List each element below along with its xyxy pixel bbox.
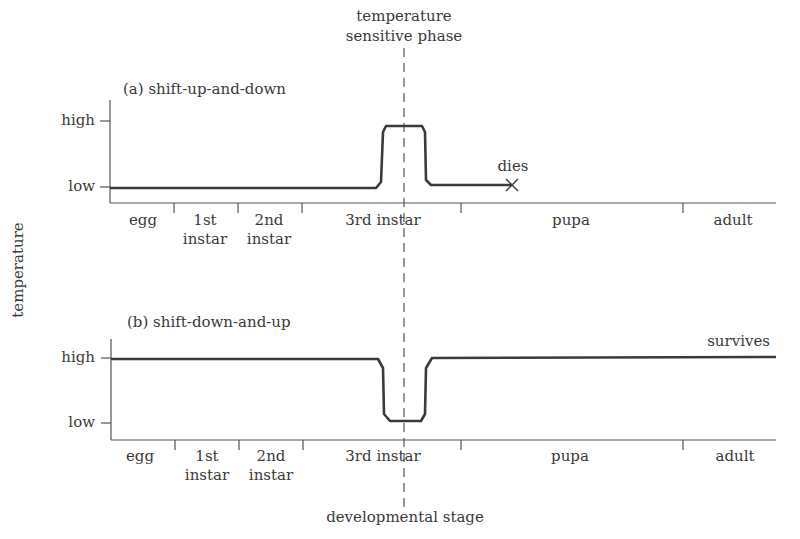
y-axis-label: temperature	[9, 222, 27, 317]
panel-b-stage-adult: adult	[715, 448, 754, 465]
x-axis-label: developmental stage	[326, 509, 484, 526]
phase-label-line1: temperature	[356, 8, 451, 25]
panel-a-low-tick: low	[68, 178, 95, 195]
panel-a-trace	[110, 126, 512, 188]
panel-a-high-tick: high	[61, 112, 95, 129]
panel-b-high-tick: high	[61, 349, 95, 366]
panel-a-stage-2nd-l1: 2nd	[255, 212, 284, 229]
panel-b-axes	[101, 339, 776, 450]
panel-b-stage-egg: egg	[126, 448, 154, 465]
panel-a-stage-pupa: pupa	[552, 212, 590, 229]
panel-b-outcome: survives	[707, 333, 770, 350]
panel-a-stage-adult: adult	[713, 212, 752, 229]
panel-a-stage-3rd: 3rd instar	[345, 212, 420, 229]
panel-a-axes	[100, 100, 776, 213]
panel-b-stage-2nd-l2: instar	[249, 467, 293, 484]
panel-b-title: (b) shift-down-and-up	[127, 314, 291, 331]
panel-b-trace	[111, 357, 776, 421]
panel-b-stage-3rd: 3rd instar	[345, 448, 420, 465]
panel-a-outcome: dies	[498, 158, 529, 175]
panel-b-stage-1st-l2: instar	[185, 467, 229, 484]
phase-label-line2: sensitive phase	[346, 28, 462, 45]
panel-b-stage-pupa: pupa	[551, 448, 589, 465]
panel-a-stage-egg: egg	[129, 212, 157, 229]
panel-b-stage-1st-l1: 1st	[195, 448, 218, 465]
panel-a-stage-2nd-l2: instar	[247, 231, 291, 248]
panel-a-title: (a) shift-up-and-down	[123, 81, 286, 98]
panel-b-stage-2nd-l1: 2nd	[257, 448, 286, 465]
panel-b-low-tick: low	[68, 414, 95, 431]
panel-a-stage-1st-l2: instar	[183, 231, 227, 248]
panel-a-stage-1st-l1: 1st	[193, 212, 216, 229]
